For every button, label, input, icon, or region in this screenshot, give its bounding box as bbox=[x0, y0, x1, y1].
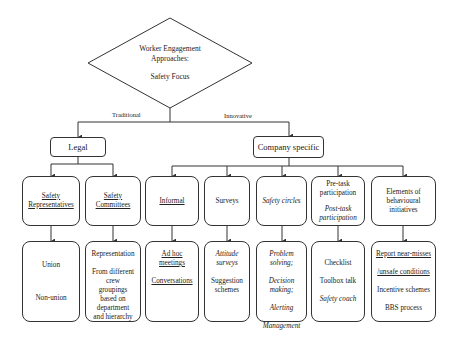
surveys-label: Surveys bbox=[215, 197, 238, 206]
pre-task-details: Checklist Toolbox talk Safety coach bbox=[311, 241, 365, 322]
behavioural-initiatives-node: Elements of behavioural initiatives bbox=[371, 176, 436, 226]
safety-representatives-label-1: Safety bbox=[42, 192, 60, 201]
detail-union: Union bbox=[42, 261, 60, 270]
safety-representatives-label-2: Representatives bbox=[28, 201, 74, 210]
pre-task-label: Pre-task participation bbox=[318, 180, 358, 198]
safety-circles-node: Safety circles bbox=[256, 176, 307, 226]
safety-circles-label: Safety circles bbox=[262, 197, 300, 206]
detail-ad-hoc-meetings: Ad hoc meetings bbox=[157, 250, 187, 268]
surveys-details: Attitude surveys Suggestion schemes bbox=[204, 241, 250, 322]
detail-bbs-process: BBS process bbox=[385, 304, 422, 313]
post-task-label: Post-task participation bbox=[316, 205, 360, 223]
pre-task-participation-node: Pre-task participation Post-task partici… bbox=[311, 176, 365, 226]
root-title-line1: Worker Engagement bbox=[139, 44, 201, 53]
surveys-node: Surveys bbox=[204, 176, 250, 226]
safety-representatives-node: Safety Representatives bbox=[22, 176, 80, 226]
detail-suggestion-schemes: Suggestion schemes bbox=[207, 277, 247, 295]
edge-label-traditional: Traditional bbox=[112, 111, 141, 118]
detail-crew-groupings: From different crew groupings based on d… bbox=[91, 268, 135, 322]
informal-node: Informal bbox=[145, 176, 199, 226]
safety-representatives-details: Union Non-union bbox=[22, 241, 80, 322]
company-specific-label: Company specific bbox=[258, 142, 320, 153]
detail-toolbox-talk: Toolbox talk bbox=[320, 277, 356, 286]
informal-details: Ad hoc meetings Conversations bbox=[145, 241, 199, 322]
detail-decision-making: Decision making; bbox=[267, 277, 297, 295]
informal-label: Informal bbox=[159, 197, 184, 206]
safety-circles-details: Problem solving; Decision making; Alerti… bbox=[256, 241, 307, 322]
detail-non-union: Non-union bbox=[35, 294, 66, 303]
root-title-line2: Approaches: bbox=[151, 54, 189, 63]
detail-safety-coach: Safety coach bbox=[320, 295, 357, 304]
legal-label: Legal bbox=[68, 142, 87, 153]
company-specific-node: Company specific bbox=[253, 136, 324, 158]
safety-committees-label-1: Safety bbox=[104, 192, 122, 201]
safety-committees-node: Safety Committees bbox=[85, 176, 141, 226]
root-subtitle: Safety Focus bbox=[118, 72, 222, 82]
detail-problem-solving: Problem solving; bbox=[267, 250, 297, 268]
behavioural-initiatives-label: Elements of behavioural initiatives bbox=[382, 188, 426, 215]
behavioural-initiatives-details: Report near-misses /unsafe conditions In… bbox=[371, 241, 436, 322]
detail-representation: Representation bbox=[91, 250, 134, 259]
detail-incentive-schemes: Incentive schemes bbox=[377, 286, 430, 295]
safety-committees-label-2: Committees bbox=[96, 201, 131, 210]
safety-committees-details: Representation From different crew group… bbox=[85, 241, 141, 322]
detail-management: Management bbox=[263, 322, 301, 331]
detail-unsafe-conditions: /unsafe conditions bbox=[377, 268, 430, 277]
detail-report-near-misses: Report near-misses bbox=[376, 250, 431, 259]
detail-alerting: Alerting bbox=[270, 304, 294, 313]
detail-attitude-surveys: Attitude surveys bbox=[212, 250, 242, 268]
detail-conversations: Conversations bbox=[151, 277, 192, 286]
legal-node: Legal bbox=[50, 137, 106, 157]
detail-checklist: Checklist bbox=[324, 259, 351, 268]
root-title: Worker Engagement Approaches: bbox=[118, 44, 222, 64]
edge-label-innovative: Innovative bbox=[224, 112, 252, 119]
